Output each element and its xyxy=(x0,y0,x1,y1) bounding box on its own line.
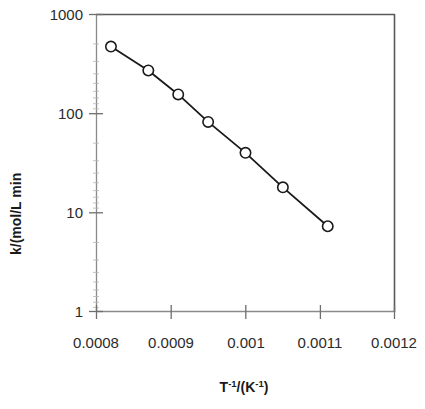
data-point xyxy=(203,117,213,127)
chart-svg: 1000 100 10 1 0.0008 0.0009 0.001 0.0011… xyxy=(0,0,425,409)
x-tick-label-1: 0.0009 xyxy=(148,334,194,351)
y-tick-label-1000: 1000 xyxy=(50,6,83,23)
data-point xyxy=(106,41,116,51)
data-point xyxy=(173,89,183,99)
x-axis-title: T-1/(K-1) xyxy=(220,378,269,395)
y-tick-label-1: 1 xyxy=(75,303,83,320)
data-point xyxy=(323,221,333,231)
data-point xyxy=(143,65,153,75)
plot-area-background xyxy=(96,14,395,312)
x-tick-label-2: 0.001 xyxy=(227,334,265,351)
x-axis-title-mid: /(K xyxy=(237,379,256,395)
arrhenius-plot: 1000 100 10 1 0.0008 0.0009 0.001 0.0011… xyxy=(0,0,425,409)
y-tick-label-100: 100 xyxy=(58,105,83,122)
x-tick-label-4: 0.0012 xyxy=(371,334,417,351)
data-point xyxy=(278,182,288,192)
x-tick-label-0: 0.0008 xyxy=(73,334,119,351)
y-tick-label-10: 10 xyxy=(66,204,83,221)
x-axis-title-end: ) xyxy=(264,379,269,395)
data-point xyxy=(240,148,250,158)
y-axis-title: k/(mol/L min xyxy=(8,173,24,255)
x-tick-label-3: 0.0011 xyxy=(298,334,343,351)
